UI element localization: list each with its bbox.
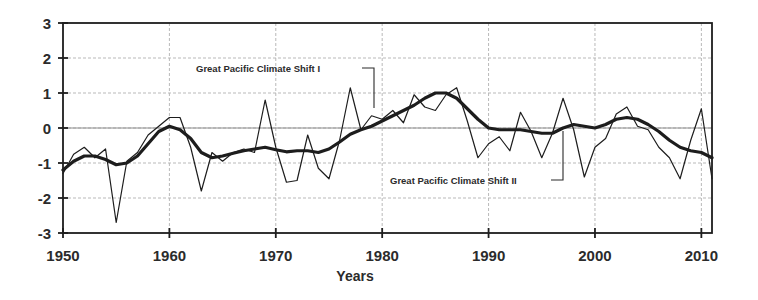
x-tick-label: 2000 bbox=[578, 247, 611, 264]
x-tick-label: 1970 bbox=[259, 247, 292, 264]
y-tick-label: -1 bbox=[38, 155, 51, 172]
x-tick-label: 1960 bbox=[153, 247, 186, 264]
y-tick-label: -3 bbox=[38, 225, 51, 242]
x-axis-title: Years bbox=[336, 268, 374, 284]
y-tick-label: -2 bbox=[38, 190, 51, 207]
x-tick-label: 1990 bbox=[472, 247, 505, 264]
pdo-index-line-chart: 3210-1-2-3 1950196019701980199020002010 … bbox=[0, 0, 758, 300]
y-tick-label: 3 bbox=[43, 15, 51, 32]
y-tick-label: 2 bbox=[43, 50, 51, 67]
y-tick-label: 0 bbox=[43, 120, 51, 137]
annotation-label-shift-1: Great Pacific Climate Shift I bbox=[196, 63, 320, 74]
chart-container: 3210-1-2-3 1950196019701980199020002010 … bbox=[0, 0, 758, 300]
x-tick-label: 1980 bbox=[365, 247, 398, 264]
x-tick-label: 1950 bbox=[46, 247, 79, 264]
y-tick-label: 1 bbox=[43, 85, 51, 102]
annotation-label-shift-2: Great Pacific Climate Shift II bbox=[390, 175, 517, 186]
x-tick-label: 2010 bbox=[685, 247, 718, 264]
